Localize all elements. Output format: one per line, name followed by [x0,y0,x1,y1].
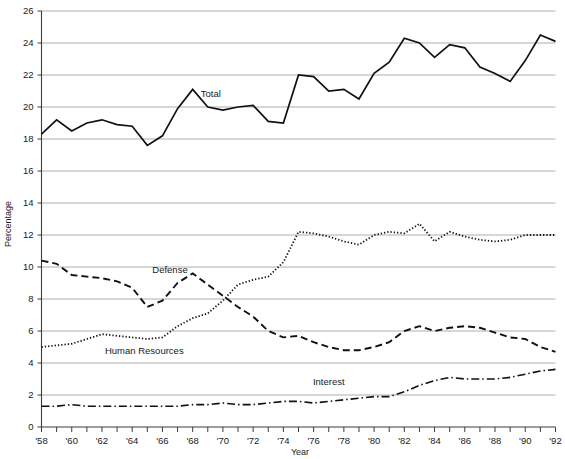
y-tick-label: 12 [23,229,34,240]
x-tick-label: '58 [35,435,47,446]
x-tick-label: '60 [66,435,78,446]
y-tick-label: 6 [28,325,33,336]
series-label-total: Total [201,88,221,99]
y-tick-label: 0 [28,421,33,432]
axes [38,11,556,427]
series-label-human-resources: Human Resources [105,345,184,356]
y-tick-label: 10 [23,261,34,272]
series-line-interest [42,369,556,406]
x-tick-label: '88 [489,435,501,446]
x-axis-tick-labels: '58'60'62'64'66'68'70'72'74'76'78'80'82'… [35,435,561,446]
y-axis-tick-labels: 02468101214161820222426 [23,5,34,432]
x-axis-title: Year [291,447,309,457]
chart-container: 02468101214161820222426 '58'60'62'64'66'… [0,0,565,459]
gridlines [42,11,556,395]
line-chart: 02468101214161820222426 '58'60'62'64'66'… [0,0,565,459]
y-tick-label: 22 [23,69,34,80]
x-tick-label: '74 [277,435,289,446]
x-tick-label: '62 [96,435,108,446]
series-line-total [42,35,556,145]
x-tick-label: '84 [428,435,440,446]
x-axis-ticks [42,427,556,432]
series-label-defense: Defense [152,264,187,275]
series-label-interest: Interest [313,376,345,387]
x-tick-label: '80 [368,435,380,446]
x-tick-label: '72 [247,435,259,446]
y-tick-label: 18 [23,133,34,144]
x-tick-label: '82 [398,435,410,446]
y-tick-label: 24 [23,37,34,48]
series-line-human-resources [42,224,556,347]
x-tick-label: '90 [519,435,531,446]
y-tick-label: 20 [23,101,34,112]
x-tick-label: '92 [549,435,561,446]
x-tick-label: '76 [307,435,319,446]
y-tick-label: 8 [28,293,33,304]
x-tick-label: '70 [217,435,229,446]
x-tick-label: '78 [338,435,350,446]
y-tick-label: 14 [23,197,34,208]
x-tick-label: '68 [186,435,198,446]
x-tick-label: '66 [156,435,168,446]
series-line-defense [42,261,556,352]
y-tick-label: 4 [28,357,33,368]
series-inline-labels: TotalDefenseHuman ResourcesInterest [105,88,345,387]
y-tick-label: 26 [23,5,34,16]
x-tick-label: '64 [126,435,138,446]
x-tick-label: '86 [459,435,471,446]
y-axis-title: Percentage [3,201,13,247]
y-tick-label: 16 [23,165,34,176]
y-tick-label: 2 [28,389,33,400]
